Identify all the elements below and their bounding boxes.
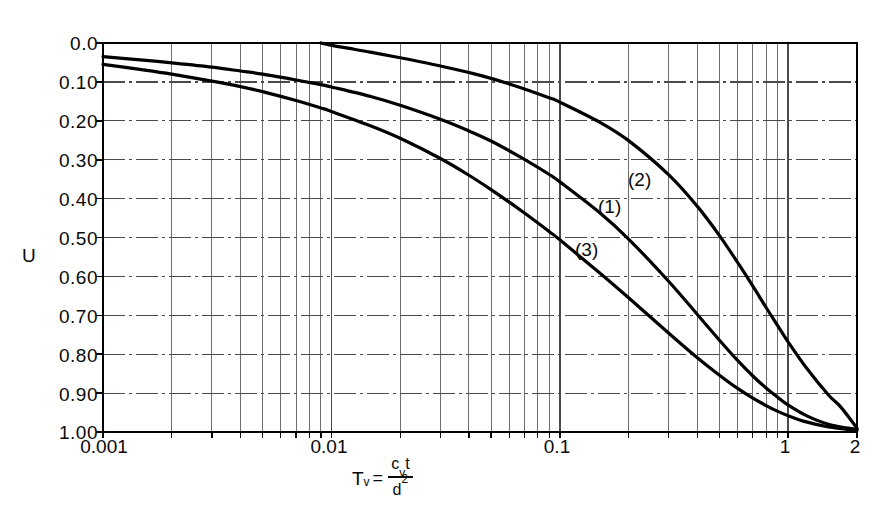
x-tick-label: 0.1 [544,437,570,456]
y-tick-label: 0.80 [59,346,98,365]
numerator-t: t [405,455,409,472]
y-tick-label: 0.10 [59,73,98,92]
y-tick-label: 0.90 [59,385,98,404]
y-tick-label: 0.60 [59,268,98,287]
denominator-exponent: 2 [401,472,408,486]
curve-label-3: (3) [575,240,598,259]
x-axis-symbol-subscript: v [364,476,370,488]
equals-sign: = [373,469,384,487]
numerator-c: c [391,455,399,472]
time-factor-fraction: cvt d2 [388,456,412,499]
x-tick-label: 2 [850,437,861,456]
x-axis-title: Tv = cvt d2 [352,457,413,500]
y-axis-title: U [22,246,36,265]
chart-figure: 0.0 0.10 0.20 0.30 0.40 0.50 0.60 0.70 0… [0,0,887,509]
y-axis-tick-labels: 0.0 0.10 0.20 0.30 0.40 0.50 0.60 0.70 0… [0,0,98,509]
y-tick-label: 0.20 [59,112,98,131]
consolidation-curve-1 [103,57,857,430]
curve-label-1: (1) [598,197,621,216]
y-tick-label: 0.70 [59,307,98,326]
consolidation-curve-2 [321,43,857,428]
x-tick-label: 0.01 [311,437,348,456]
fraction-denominator: d2 [390,478,412,498]
y-tick-label: 0.0 [70,34,98,53]
y-tick-label: 0.50 [59,229,98,248]
chart-plot-area [0,0,887,509]
x-axis-symbol: T [352,469,364,488]
curve-label-2: (2) [628,170,651,189]
consolidation-curve-3 [103,64,857,430]
x-tick-label: 0.001 [80,437,128,456]
y-tick-label: 0.30 [59,151,98,170]
x-tick-label: 1 [780,437,791,456]
y-tick-label: 0.40 [59,190,98,209]
